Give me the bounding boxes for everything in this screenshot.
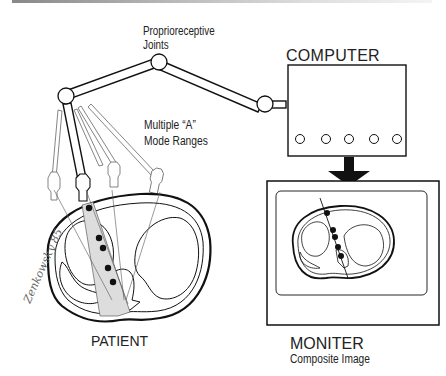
mode-ranges-label: Multiple “A” Mode Ranges — [144, 117, 208, 149]
patient-cross-section — [48, 194, 211, 322]
joint-shoulder-icon — [58, 88, 74, 104]
monitor-label: MONITER — [290, 336, 364, 352]
joint-wrist-icon — [257, 96, 273, 112]
joints-label: Proprioreceptive Joints — [143, 24, 215, 52]
monitor-frame — [267, 181, 439, 325]
monitor — [267, 181, 439, 325]
acoustic-beam — [82, 202, 130, 316]
mode-ranges-line1: Multiple “A” — [144, 117, 208, 133]
joints-label-line2: Joints — [143, 38, 215, 52]
joint-elbow-icon — [151, 54, 167, 70]
computer — [288, 65, 406, 156]
patient-label: PATIENT — [91, 334, 148, 348]
mode-ranges-line2: Mode Ranges — [144, 133, 208, 149]
artist-signature: Zenkowsky 85 — [20, 227, 65, 306]
composite-image-label: Composite Image — [290, 353, 370, 365]
joints-label-line1: Proprioreceptive — [143, 24, 215, 38]
computer-label: COMPUTER — [286, 48, 380, 64]
